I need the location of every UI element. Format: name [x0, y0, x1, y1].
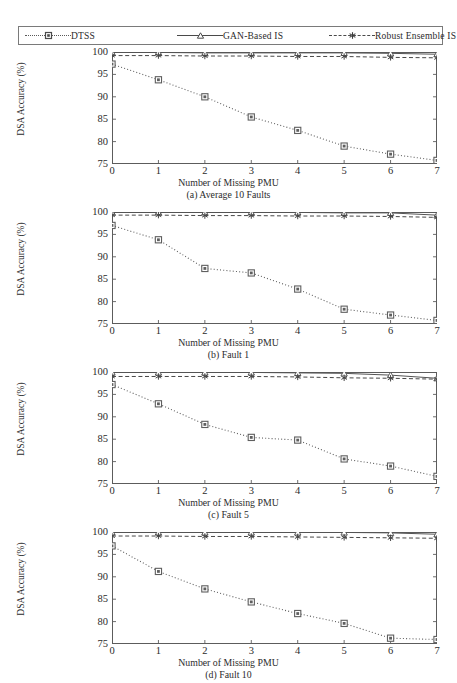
series-canvas: [112, 52, 437, 164]
chart-panel-b: DSA Accuracy (%)758085909510001234567Num…: [0, 208, 457, 328]
y-axis-label: DSA Accuracy (%): [16, 209, 26, 309]
x-tick-label: 0: [102, 325, 122, 336]
series-dtss: [112, 61, 437, 164]
x-tick-label: 3: [241, 485, 261, 496]
x-axis-label: Number of Missing PMU: [0, 337, 457, 348]
y-axis-ticks: 7580859095100: [80, 368, 108, 488]
y-tick-label: 95: [82, 549, 108, 559]
x-tick-label: 4: [288, 165, 308, 176]
x-tick-label: 0: [102, 645, 122, 656]
panel-caption-a: (a) Average 10 Faults: [0, 189, 457, 200]
chart-panel-c: DSA Accuracy (%)758085909510001234567Num…: [0, 368, 457, 488]
x-tick-label: 1: [148, 325, 168, 336]
y-tick-label: 80: [82, 617, 108, 627]
x-tick-label: 0: [102, 165, 122, 176]
x-tick-label: 2: [195, 325, 215, 336]
series-canvas: [112, 372, 437, 484]
plot-area-a: DSA Accuracy (%)758085909510001234567Num…: [0, 48, 457, 168]
legend-label-robust-ensemble-is: Robust Ensemble IS: [375, 31, 456, 41]
y-tick-label: 100: [82, 527, 108, 537]
y-tick-label: 85: [82, 434, 108, 444]
legend-label-dtss: DTSS: [71, 31, 95, 41]
plot-area-d: DSA Accuracy (%)758085909510001234567Num…: [0, 528, 457, 648]
figure-page: DTSS GAN-Based IS Robust Ensembl: [0, 0, 457, 683]
x-tick-label: 4: [288, 645, 308, 656]
y-tick-label: 80: [82, 137, 108, 147]
x-tick-label: 3: [241, 165, 261, 176]
chart-panel-d: DSA Accuracy (%)758085909510001234567Num…: [0, 528, 457, 648]
series-canvas: [112, 532, 437, 644]
panel-caption-b: (b) Fault 1: [0, 349, 457, 360]
x-tick-label: 7: [427, 165, 447, 176]
y-axis-ticks: 7580859095100: [80, 48, 108, 168]
y-tick-label: 85: [82, 274, 108, 284]
y-tick-label: 80: [82, 457, 108, 467]
legend-entry-dtss: DTSS: [19, 27, 171, 44]
legend-label-gan-based-is: GAN-Based IS: [223, 31, 283, 41]
x-tick-label: 6: [381, 485, 401, 496]
panel-caption-d: (d) Fault 10: [0, 669, 457, 680]
triangle-marker: [177, 30, 223, 42]
x-tick-label: 5: [334, 485, 354, 496]
x-tick-label: 7: [427, 485, 447, 496]
chart-legend: DTSS GAN-Based IS Robust Ensembl: [18, 26, 443, 45]
x-tick-label: 4: [288, 325, 308, 336]
y-tick-label: 90: [82, 92, 108, 102]
plot-area-b: DSA Accuracy (%)758085909510001234567Num…: [0, 208, 457, 328]
x-tick-label: 6: [381, 325, 401, 336]
x-tick-label: 3: [241, 645, 261, 656]
y-tick-label: 85: [82, 114, 108, 124]
plot-area-c: DSA Accuracy (%)758085909510001234567Num…: [0, 368, 457, 488]
asterisk-marker: [329, 30, 375, 42]
y-tick-label: 90: [82, 252, 108, 262]
x-tick-label: 5: [334, 325, 354, 336]
x-tick-label: 1: [148, 485, 168, 496]
y-tick-label: 100: [82, 47, 108, 57]
x-tick-label: 2: [195, 485, 215, 496]
y-axis-label: DSA Accuracy (%): [16, 369, 26, 469]
y-tick-label: 100: [82, 207, 108, 217]
series-canvas: [112, 212, 437, 324]
panel-caption-c: (c) Fault 5: [0, 509, 457, 520]
x-tick-label: 1: [148, 645, 168, 656]
x-tick-label: 0: [102, 485, 122, 496]
x-tick-label: 6: [381, 165, 401, 176]
chart-panel-a: DSA Accuracy (%)758085909510001234567Num…: [0, 48, 457, 168]
y-axis-ticks: 7580859095100: [80, 208, 108, 328]
y-axis-label: DSA Accuracy (%): [16, 49, 26, 149]
x-axis-label: Number of Missing PMU: [0, 177, 457, 188]
x-axis-label: Number of Missing PMU: [0, 657, 457, 668]
legend-entry-gan-based-is: GAN-Based IS: [171, 27, 323, 44]
x-tick-label: 3: [241, 325, 261, 336]
x-tick-label: 6: [381, 645, 401, 656]
series-dtss: [112, 543, 437, 643]
y-tick-label: 100: [82, 367, 108, 377]
y-tick-label: 90: [82, 412, 108, 422]
y-axis-ticks: 7580859095100: [80, 528, 108, 648]
x-tick-label: 1: [148, 165, 168, 176]
x-axis-label: Number of Missing PMU: [0, 497, 457, 508]
x-tick-label: 7: [427, 325, 447, 336]
x-tick-label: 5: [334, 165, 354, 176]
x-tick-label: 2: [195, 165, 215, 176]
y-tick-label: 80: [82, 297, 108, 307]
series-dtss: [112, 381, 437, 479]
square-marker: [25, 30, 71, 42]
legend-entry-robust-ensemble-is: Robust Ensemble IS: [323, 27, 442, 44]
x-tick-label: 7: [427, 645, 447, 656]
series-dtss: [112, 222, 437, 323]
x-tick-label: 5: [334, 645, 354, 656]
y-tick-label: 95: [82, 229, 108, 239]
y-tick-label: 85: [82, 594, 108, 604]
y-tick-label: 95: [82, 389, 108, 399]
y-tick-label: 95: [82, 69, 108, 79]
x-tick-label: 2: [195, 645, 215, 656]
x-tick-label: 4: [288, 485, 308, 496]
y-axis-label: DSA Accuracy (%): [16, 529, 26, 629]
y-tick-label: 90: [82, 572, 108, 582]
